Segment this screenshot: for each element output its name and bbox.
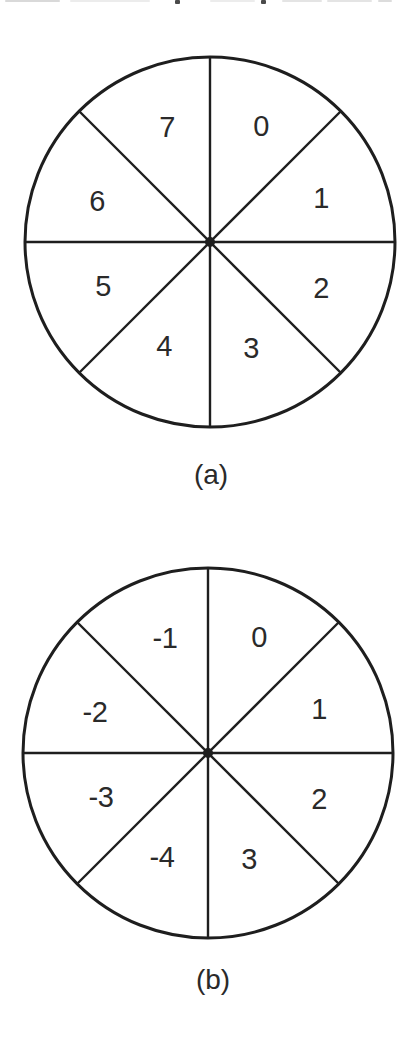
sector-label: 1 <box>313 184 329 213</box>
sector-label: 2 <box>311 785 327 814</box>
sector-label: 4 <box>156 332 172 361</box>
figure-b-caption: (b) <box>196 966 230 994</box>
number-wheel-b-drawing <box>21 566 395 940</box>
sector-label: 3 <box>243 334 259 363</box>
sector-label: 5 <box>95 272 111 301</box>
sector-label: 2 <box>313 274 329 303</box>
scanned-figure-page: 0 1 2 3 4 5 6 7 (a) 0 1 2 3 -4 -3 -2 -1 … <box>0 0 409 1047</box>
center-hub-dot <box>203 748 213 758</box>
sector-label: -4 <box>150 843 175 872</box>
figure-a-caption: (a) <box>194 461 228 489</box>
center-hub-dot <box>205 237 215 247</box>
sector-label: 1 <box>311 695 327 724</box>
sector-label: -3 <box>89 783 114 812</box>
sector-label: 0 <box>253 112 269 141</box>
sector-label: 3 <box>241 845 257 874</box>
text-fragment <box>210 0 255 2</box>
sector-label: -2 <box>83 698 108 727</box>
sector-label: 0 <box>251 623 267 652</box>
cropped-text-remnant <box>0 0 409 6</box>
sector-label: 6 <box>89 187 105 216</box>
sector-label: -1 <box>153 624 178 653</box>
text-fragment <box>175 0 180 4</box>
sector-label: 7 <box>159 113 175 142</box>
text-fragment <box>327 0 372 2</box>
text-fragment <box>282 0 322 2</box>
text-fragment <box>70 0 150 2</box>
number-wheel-a: 0 1 2 3 4 5 6 7 <box>23 55 397 429</box>
text-fragment <box>261 0 266 4</box>
number-wheel-b: 0 1 2 3 -4 -3 -2 -1 <box>21 566 395 940</box>
text-fragment <box>5 0 60 2</box>
number-wheel-a-drawing <box>23 55 397 429</box>
text-fragment <box>378 0 392 2</box>
